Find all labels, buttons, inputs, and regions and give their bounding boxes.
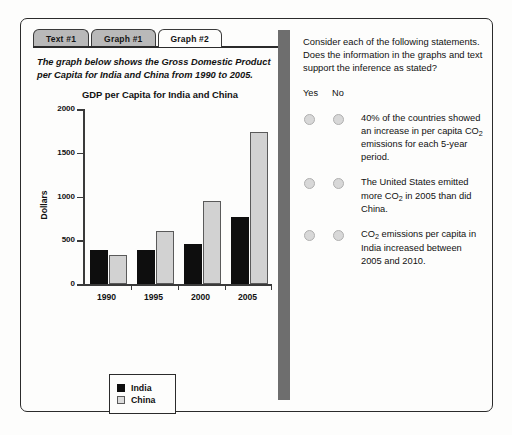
bar-india-2005 xyxy=(231,217,249,284)
bar-india-1995 xyxy=(137,250,155,284)
subscript: 2 xyxy=(375,232,379,241)
yes-column-label: Yes xyxy=(303,88,318,98)
questions-column: Consider each of the following statement… xyxy=(303,35,483,268)
radio-yes-2[interactable] xyxy=(304,178,315,189)
x-tick-mark xyxy=(271,285,272,290)
question-panel: Text #1 Graph #1 Graph #2 The graph belo… xyxy=(20,18,493,412)
legend-item-india: India xyxy=(117,383,155,393)
statement-text-2: The United States emitted more CO2 in 20… xyxy=(361,176,483,216)
chart-title: GDP per Capita for India and China xyxy=(35,89,285,100)
radio-yes-1[interactable] xyxy=(304,114,315,125)
panel-divider xyxy=(278,30,290,400)
yes-no-header: Yes No xyxy=(303,88,483,100)
statement-text-3: CO2 emissions per capita in India increa… xyxy=(361,228,483,268)
legend-item-china: China xyxy=(117,395,155,405)
bar-china-1990 xyxy=(109,255,127,284)
y-tick-label: 2000 xyxy=(43,104,75,113)
graph-content-column: The graph below shows the Gross Domestic… xyxy=(35,52,285,407)
legend-swatch-india xyxy=(117,384,125,392)
tab-text-1[interactable]: Text #1 xyxy=(33,29,89,47)
gdp-bar-chart: Dollars 0500100015002000 199019952000200… xyxy=(35,104,285,314)
y-tick-mark xyxy=(77,284,84,285)
bar-china-2000 xyxy=(203,201,221,284)
question-prompt: Consider each of the following statement… xyxy=(303,35,483,75)
tab-graph-2[interactable]: Graph #2 xyxy=(158,29,222,47)
x-tick-label: 2005 xyxy=(238,292,257,302)
legend-label-india: India xyxy=(131,383,152,393)
statement-list: 40% of the countries showed an increase … xyxy=(303,112,483,269)
tab-label: Text #1 xyxy=(46,34,76,44)
radio-no-2[interactable] xyxy=(333,178,344,189)
tab-label: Graph #1 xyxy=(104,34,142,44)
x-tick-mark xyxy=(131,285,132,290)
radio-no-1[interactable] xyxy=(333,114,344,125)
x-tick-mark xyxy=(225,285,226,290)
x-tick-label: 1990 xyxy=(97,292,116,302)
y-tick-label: 0 xyxy=(43,279,75,288)
x-tick-mark xyxy=(178,285,179,290)
plot-area xyxy=(83,109,271,284)
statement-row-2: The United States emitted more CO2 in 20… xyxy=(303,176,483,216)
bar-india-1990 xyxy=(90,250,108,284)
subscript: 2 xyxy=(479,129,483,138)
bar-china-2005 xyxy=(250,132,268,284)
y-tick-label: 500 xyxy=(43,235,75,244)
legend-swatch-china xyxy=(117,396,125,404)
statement-row-3: CO2 emissions per capita in India increa… xyxy=(303,228,483,268)
tab-bar: Text #1 Graph #1 Graph #2 xyxy=(33,28,224,47)
y-tick-label: 1000 xyxy=(43,192,75,201)
bar-india-2000 xyxy=(184,244,202,284)
graph-intro-text: The graph below shows the Gross Domestic… xyxy=(37,56,283,81)
subscript: 2 xyxy=(399,194,403,203)
tab-graph-1[interactable]: Graph #1 xyxy=(91,29,155,47)
chart-legend: India China xyxy=(109,374,176,414)
legend-label-china: China xyxy=(131,395,155,405)
radio-yes-3[interactable] xyxy=(304,230,315,241)
x-tick-label: 1995 xyxy=(144,292,163,302)
x-tick-label: 2000 xyxy=(191,292,210,302)
tab-label: Graph #2 xyxy=(171,34,209,44)
statement-text-1: 40% of the countries showed an increase … xyxy=(361,112,483,165)
statement-row-1: 40% of the countries showed an increase … xyxy=(303,112,483,165)
bar-china-1995 xyxy=(156,231,174,284)
y-tick-label: 1500 xyxy=(43,148,75,157)
radio-no-3[interactable] xyxy=(333,230,344,241)
no-column-label: No xyxy=(332,88,344,98)
